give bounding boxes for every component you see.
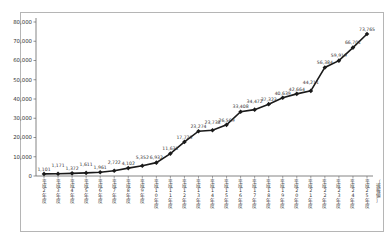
x-tick-label: 平成16年度 (238, 179, 243, 210)
x-tick-label: 平成22年度 (322, 179, 327, 210)
y-tick-label: 20,000 (13, 134, 32, 140)
data-point-label: 11,631 (162, 146, 178, 151)
x-tick-label: 平成19年度 (280, 179, 285, 210)
data-point-label: 1,372 (66, 166, 79, 171)
data-point (126, 166, 131, 171)
x-tick-label: 平成4年度 (70, 179, 75, 205)
y-tick-label: 40,000 (13, 96, 32, 102)
data-point-label: 1,961 (94, 165, 107, 170)
data-point (112, 168, 117, 173)
data-point (294, 92, 299, 97)
data-point-label: 73,765 (359, 27, 375, 32)
x-tick-label: 平成3年度 (56, 179, 61, 205)
x-tick-label: 平成11年度 (168, 179, 173, 210)
data-point-label: 26,569 (219, 118, 235, 123)
x-tick-label: 平成21年度 (308, 179, 313, 210)
data-point-label: 2,722 (108, 160, 121, 165)
data-point-label: 1,171 (51, 163, 64, 168)
x-tick-label: 平成7年度 (112, 179, 117, 205)
y-tick-label: 0 (29, 173, 33, 179)
x-tick-label: 平成8年度 (126, 179, 131, 205)
y-tick-label: 60,000 (13, 57, 32, 63)
y-tick-label: 30,000 (13, 115, 32, 121)
data-point (252, 107, 257, 112)
annotation-label: 〔速報値〕 (376, 179, 381, 204)
x-tick-label: 平成13年度 (196, 179, 201, 210)
data-point-label: 42,664 (289, 87, 305, 92)
data-point (56, 171, 61, 176)
y-tick-label: 10,000 (13, 154, 32, 160)
x-tick-label: 平成6年度 (98, 179, 103, 205)
data-point (70, 171, 75, 176)
data-point-label: 23,274 (190, 124, 206, 129)
x-tick-label: 平成18年度 (266, 179, 271, 210)
data-line (44, 34, 367, 174)
x-tick-label: 平成2年度 (42, 179, 47, 205)
line-chart-svg: 010,00020,00030,00040,00050,00060,00070,… (0, 0, 388, 239)
data-point-label: 56,384 (317, 60, 333, 65)
data-point-label: 6,932 (150, 155, 163, 160)
data-point-label: 5,352 (136, 155, 149, 160)
x-tick-label: 平成23年度 (336, 179, 341, 210)
data-point (98, 170, 103, 175)
x-tick-label: 平成12年度 (182, 179, 187, 210)
x-tick-label: 平成17年度 (252, 179, 257, 210)
data-point (84, 171, 89, 176)
x-tick-label: 平成9年度 (140, 179, 145, 205)
x-tick-label: 平成20年度 (294, 179, 299, 210)
data-point-label: 37,323 (261, 97, 277, 102)
data-point (42, 172, 47, 177)
data-point-label: 66,701 (345, 40, 361, 45)
data-point (140, 163, 145, 168)
data-point-label: 4,102 (122, 161, 135, 166)
data-point-label: 1,611 (80, 162, 93, 167)
data-point-label: 33,408 (233, 104, 249, 109)
data-point (210, 128, 215, 133)
x-tick-label: 平成5年度 (84, 179, 89, 205)
data-point-label: 1,101 (37, 167, 50, 172)
chart-page: 010,00020,00030,00040,00050,00060,00070,… (0, 0, 388, 239)
y-tick-label: 50,000 (13, 77, 32, 83)
y-tick-label: 80,000 (13, 19, 32, 25)
x-tick-label: 平成14年度 (210, 179, 215, 210)
y-tick-label: 70,000 (13, 38, 32, 44)
x-tick-label: 平成24年度 (350, 179, 355, 210)
data-point-label: 59,919 (331, 53, 347, 58)
x-tick-label: 平成10年度 (154, 179, 159, 210)
data-point-label: 17,725 (176, 135, 192, 140)
x-tick-label: 平成25年度 (365, 179, 370, 210)
data-point-label: 44,211 (303, 80, 319, 85)
x-tick-label: 平成15年度 (224, 179, 229, 210)
